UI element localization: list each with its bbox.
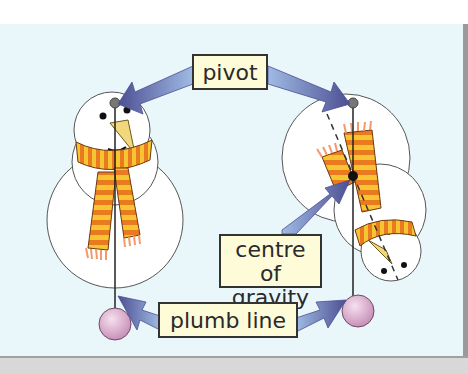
arrow-pivot-right	[268, 66, 350, 112]
centre-of-gravity-label: centre of gravity	[219, 234, 322, 288]
arrow-pivot-left	[118, 66, 193, 114]
plumb-line-label: plumb line	[158, 302, 298, 338]
plumb-line-label-text: plumb line	[170, 308, 286, 333]
plumb-bob-right	[342, 295, 374, 327]
plumb-bob-left	[99, 308, 131, 340]
centre-of-gravity-line1: centre	[221, 238, 320, 262]
centre-of-gravity-point	[348, 171, 358, 181]
pivot-label: pivot	[192, 54, 268, 90]
pivot-label-text: pivot	[202, 60, 257, 85]
